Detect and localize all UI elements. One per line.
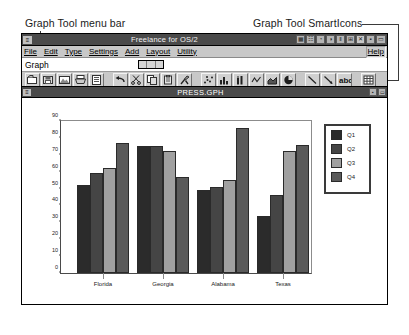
legend-item-q1[interactable]: Q1	[331, 130, 369, 140]
legend-label-q3: Q3	[347, 160, 355, 166]
paste-icon[interactable]	[161, 73, 176, 87]
toolbar-separator-2	[193, 80, 200, 81]
y-axis-tick-mark	[59, 272, 61, 273]
bar-group[interactable]: Florida	[77, 121, 129, 273]
callout-leader-line-smarticons-vertical	[398, 24, 399, 81]
x-axis-tick-label: Florida	[94, 281, 112, 287]
menu-item-type-label: Type	[65, 47, 82, 56]
menu-item-edit[interactable]: Edit	[44, 47, 58, 57]
legend-swatch-q1	[331, 130, 342, 140]
y-axis-tick-mark	[59, 238, 61, 239]
menu-item-add[interactable]: Add	[125, 47, 139, 57]
legend-item-q3[interactable]: Q3	[331, 158, 369, 168]
page-layout-icon[interactable]	[89, 73, 104, 87]
legend-label-q2: Q2	[347, 146, 355, 152]
open-folder-icon[interactable]	[25, 73, 40, 87]
x-axis-tick-mark	[163, 273, 164, 279]
x-axis-tick-label: Alabama	[211, 281, 235, 287]
menu-item-layout[interactable]: Layout	[146, 47, 170, 57]
y-axis-tick-mark	[59, 204, 61, 205]
close-icon[interactable]: ✕	[356, 35, 365, 44]
bar-q4-florida[interactable]	[116, 143, 129, 273]
hi-lo-chart-icon[interactable]	[233, 73, 248, 87]
bar-q3-texas[interactable]	[283, 151, 296, 273]
application-title: Freelance for OS/2	[33, 35, 296, 44]
graph-segment-1[interactable]	[139, 61, 147, 68]
restore-tile-icon[interactable]: ▦	[296, 35, 305, 44]
scatter-chart-icon[interactable]	[201, 73, 216, 87]
legend-item-q4[interactable]: Q4	[331, 172, 369, 182]
graph-segment-control[interactable]	[138, 60, 164, 69]
bar-q2-texas[interactable]	[270, 195, 283, 273]
arrow-draw-icon[interactable]	[321, 73, 336, 87]
print-icon[interactable]	[73, 73, 88, 87]
tools-icon[interactable]	[177, 73, 192, 87]
pie-chart-icon[interactable]	[281, 73, 296, 87]
bar-q2-georgia[interactable]	[150, 146, 163, 273]
system-menu-icon[interactable]: ≡	[22, 35, 33, 45]
y-axis-tick-label: 90	[52, 112, 61, 118]
document-maximize-icon[interactable]: ▭	[378, 88, 386, 96]
cut-scissors-icon[interactable]	[129, 73, 144, 87]
bar-q4-georgia[interactable]	[176, 177, 189, 273]
bar-q3-florida[interactable]	[103, 168, 116, 273]
copy-icon[interactable]	[145, 73, 160, 87]
line-draw-icon[interactable]	[305, 73, 320, 87]
bar-q2-florida[interactable]	[90, 173, 103, 273]
table-grid-icon[interactable]	[361, 73, 376, 87]
menu-item-utility-label: Utility	[177, 47, 197, 56]
bar-q1-texas[interactable]	[257, 216, 270, 273]
undo-icon[interactable]	[113, 73, 128, 87]
menu-item-edit-label: Edit	[44, 47, 58, 56]
area-chart-icon[interactable]	[265, 73, 280, 87]
bar-group[interactable]: Alabama	[197, 121, 249, 273]
bar-q1-florida[interactable]	[77, 185, 90, 273]
y-axis-tick-mark	[59, 255, 61, 256]
chart-icon[interactable]: ‖	[336, 35, 345, 44]
minimize-icon[interactable]: ▪	[366, 35, 375, 44]
maximize-icon[interactable]: ▭	[376, 35, 386, 44]
y-axis-tick-label: 80	[52, 129, 61, 135]
bar-q3-alabama[interactable]	[223, 180, 236, 273]
svg-text:abc: abc	[339, 76, 351, 85]
document-title-bar: ≡ PRESS.GPH ▪ ▭	[22, 87, 387, 98]
image-import-icon[interactable]	[57, 73, 72, 87]
bar-q4-alabama[interactable]	[236, 128, 249, 273]
bar-group[interactable]: Texas	[257, 121, 309, 273]
menu-item-help[interactable]: Help	[366, 46, 386, 58]
menu-item-settings[interactable]: Settings	[89, 47, 118, 57]
graph-segment-2[interactable]	[147, 61, 155, 68]
globe-icon[interactable]: ◔	[316, 35, 325, 44]
document-window: ≡ PRESS.GPH ▪ ▭ 0102030405060708090Flori…	[22, 86, 387, 304]
bar-q1-georgia[interactable]	[137, 146, 150, 273]
bar-q2-alabama[interactable]	[210, 187, 223, 273]
menu-item-type[interactable]: Type	[65, 47, 82, 57]
chart-legend[interactable]: Q1Q2Q3Q4	[324, 124, 371, 194]
chart-canvas[interactable]: 0102030405060708090FloridaGeorgiaAlabama…	[22, 98, 387, 304]
legend-item-q2[interactable]: Q2	[331, 144, 369, 154]
page-icon[interactable]: ☷	[306, 35, 315, 44]
graph-segment-3[interactable]	[156, 61, 163, 68]
save-file-icon[interactable]	[41, 73, 56, 87]
menu-item-layout-label: Layout	[146, 47, 170, 56]
clock-icon[interactable]: ◑	[326, 35, 335, 44]
bar-q3-georgia[interactable]	[163, 151, 176, 273]
document-minimize-icon[interactable]: ▪	[369, 88, 377, 96]
toolbar-separator-1	[105, 80, 112, 81]
y-axis-tick-label: 60	[52, 163, 61, 169]
menu-item-file[interactable]: File	[24, 47, 37, 57]
legend-label-q1: Q1	[347, 132, 355, 138]
bar-group[interactable]: Georgia	[137, 121, 189, 273]
line-chart-icon[interactable]	[249, 73, 264, 87]
menu-item-help-label: Help	[368, 47, 384, 56]
y-axis-tick-label: 0	[55, 264, 61, 270]
bar-chart-icon[interactable]	[217, 73, 232, 87]
toolbar-separator-4	[353, 80, 360, 81]
document-system-menu-icon[interactable]: ≡	[22, 88, 32, 97]
text-abc-icon[interactable]: abc	[337, 73, 352, 87]
bar-q4-texas[interactable]	[296, 145, 309, 273]
y-axis-tick-mark	[59, 221, 61, 222]
bar-q1-alabama[interactable]	[197, 190, 210, 273]
grid-icon[interactable]: ⊞	[346, 35, 355, 44]
menu-item-utility[interactable]: Utility	[177, 47, 197, 57]
